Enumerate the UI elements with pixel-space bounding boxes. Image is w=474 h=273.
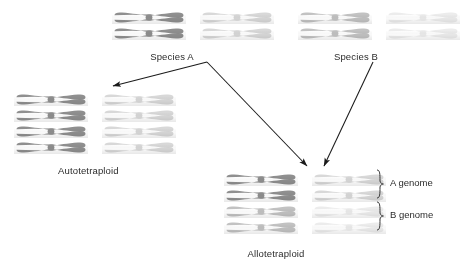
chromosome: [224, 220, 298, 238]
chromosome-row: [224, 188, 386, 202]
chromosome: [386, 26, 460, 44]
chromosome: [14, 140, 88, 158]
chromosome-row: [298, 26, 460, 40]
chromosome-row: [224, 172, 386, 186]
label-species-b: Species B: [334, 51, 378, 62]
chromosome-row: [14, 92, 176, 106]
chromosome: [102, 140, 176, 158]
chromosome-row: [14, 108, 176, 122]
species-a-to-allotetraploid-arrow: [207, 62, 307, 166]
chromosome-row: [112, 10, 274, 24]
label-autotetraploid: Autotetraploid: [58, 165, 119, 176]
chromosome: [312, 220, 386, 238]
chromosome-row: [224, 204, 386, 218]
label-a-genome: A genome: [390, 177, 433, 188]
chromosome: [200, 26, 274, 44]
chromosome: [112, 26, 186, 44]
species-a-to-autotetraploid-arrow: [113, 62, 207, 86]
chromosome-row: [112, 26, 274, 40]
label-allotetraploid: Allotetraploid: [247, 248, 304, 259]
label-b-genome: B genome: [390, 209, 433, 220]
species-b-to-allotetraploid-arrow: [324, 62, 373, 166]
chromosome-row: [14, 124, 176, 138]
label-species-a: Species A: [150, 51, 194, 62]
chromosome-row: [298, 10, 460, 24]
chromosome-row: [14, 140, 176, 154]
chromosome: [298, 26, 372, 44]
polyploidy-diagram: Species A Species B Autotetraploid Allot…: [0, 0, 474, 273]
chromosome-row: [224, 220, 386, 234]
